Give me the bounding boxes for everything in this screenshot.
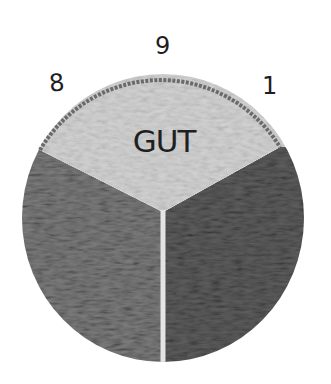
clock-label-left: 8 [48, 70, 66, 95]
pie-diagram: 9 8 1 GUT [0, 0, 331, 384]
sector-label-gut: GUT [131, 126, 197, 157]
clock-label-top: 9 [155, 34, 170, 58]
clock-label-right: 1 [262, 74, 277, 98]
divider-line [161, 210, 166, 370]
